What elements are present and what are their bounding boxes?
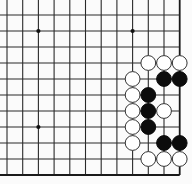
black-stone[interactable] (157, 136, 172, 151)
white-stone[interactable] (125, 72, 140, 87)
white-stone[interactable] (157, 104, 172, 119)
black-stone[interactable] (141, 88, 156, 103)
black-stone[interactable] (172, 72, 187, 87)
black-stone[interactable] (141, 120, 156, 135)
white-stone[interactable] (172, 56, 187, 71)
star-point (36, 125, 40, 129)
white-stone[interactable] (125, 104, 140, 119)
black-stone[interactable] (172, 136, 187, 151)
black-stone[interactable] (141, 104, 156, 119)
white-stone[interactable] (172, 152, 187, 167)
white-stone[interactable] (157, 152, 172, 167)
star-point (36, 29, 40, 33)
white-stone[interactable] (141, 56, 156, 71)
board-grid (0, 0, 180, 175)
white-stone[interactable] (125, 136, 140, 151)
go-board[interactable] (0, 0, 192, 184)
white-stone[interactable] (125, 120, 140, 135)
black-stone[interactable] (157, 72, 172, 87)
white-stone[interactable] (125, 88, 140, 103)
white-stone[interactable] (141, 152, 156, 167)
white-stone[interactable] (157, 56, 172, 71)
star-point (131, 29, 135, 33)
